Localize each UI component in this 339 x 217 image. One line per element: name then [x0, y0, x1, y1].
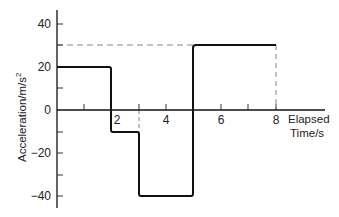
y-axis-title: Acceleration/m/s2: [14, 72, 28, 162]
y-tick-label-0: 0: [44, 103, 51, 117]
y-tick-label-neg20: −20: [31, 146, 52, 160]
y-tick-label-40: 40: [38, 17, 52, 31]
x-tick-label-6: 6: [218, 113, 225, 127]
x-axis-title-line1: Elapsed: [288, 113, 330, 125]
x-axis-title-line2: Time/s: [290, 127, 324, 139]
y-axis-title-superscript: 2: [14, 72, 23, 77]
acceleration-time-chart: 40 20 0 −20 −40 2 4 6 8 Elapsed Time/s A…: [0, 0, 339, 217]
x-ticks: [84, 104, 276, 110]
y-tick-label-neg40: −40: [31, 189, 52, 203]
svg-text:Acceleration/m/s2: Acceleration/m/s2: [14, 72, 28, 162]
y-axis-title-text: Acceleration/m/s: [16, 77, 28, 162]
x-tick-label-2: 2: [114, 113, 121, 127]
x-tick-label-8: 8: [273, 113, 280, 127]
x-tick-label-4: 4: [163, 113, 170, 127]
y-tick-label-20: 20: [38, 60, 52, 74]
